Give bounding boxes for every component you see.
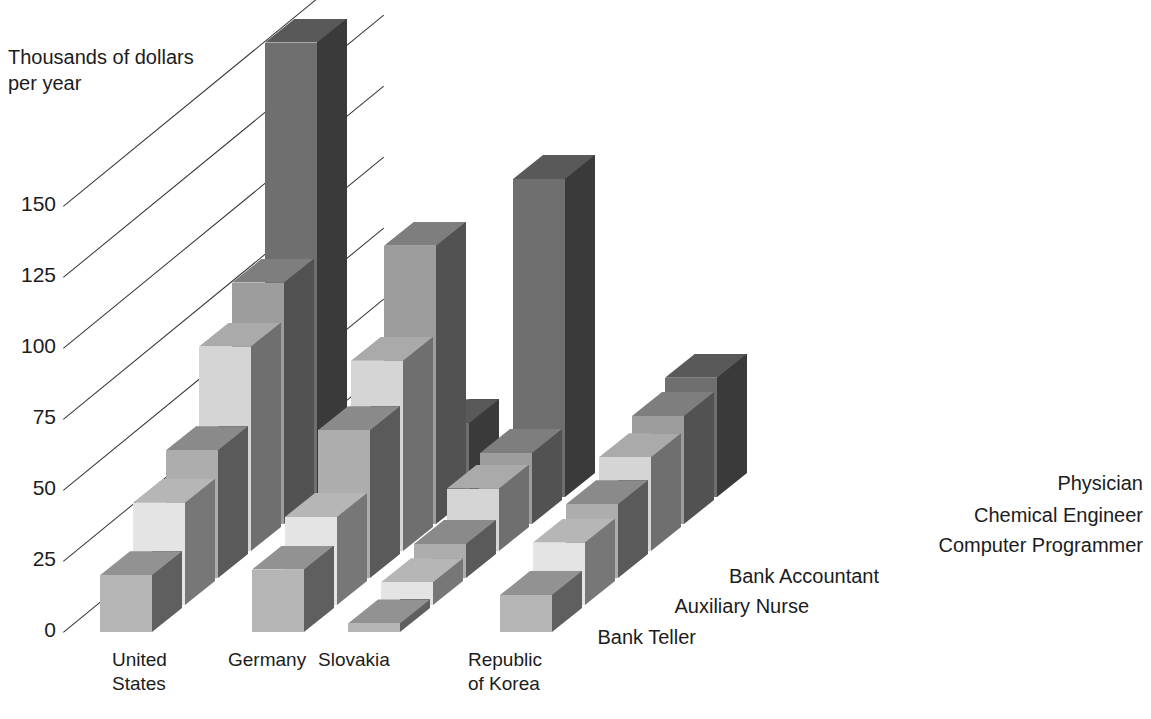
category-label-slovakia: Slovakia [318,648,390,672]
series-label-physician: Physician [1057,472,1143,495]
y-axis-tick-50: 50 [0,476,56,500]
bar-side-face [717,354,747,497]
y-axis-tick-25: 25 [0,547,56,571]
bar-side-face [218,426,248,578]
bar-bank-teller-germany [252,570,304,632]
chart-canvas: Thousands of dollars per year 1501251007… [0,0,1151,719]
bar-bank-teller-slovakia [348,623,400,632]
bar-front-face [348,623,400,632]
bar-bank-teller-republic-of-korea [500,595,552,632]
series-label-bank-teller: Bank Teller [597,626,696,649]
category-label-germany: Germany [228,648,306,672]
category-label-united-states: United States [112,648,167,696]
bar-front-face [100,575,152,632]
series-label-auxiliary-nurse: Auxiliary Nurse [675,595,809,618]
bar-side-face [251,323,281,551]
series-label-computer-programmer: Computer Programmer [938,534,1143,557]
y-axis-tick-0: 0 [0,618,56,642]
bar-side-face [284,259,314,524]
series-label-chemical-engineer: Chemical Engineer [974,504,1143,527]
y-axis-tick-100: 100 [0,334,56,358]
bar-side-face [565,155,595,497]
y-axis-caption: Thousands of dollars per year [8,44,194,96]
y-axis-tick-125: 125 [0,263,56,287]
bar-bank-teller-united-states [100,575,152,632]
bar-side-face [403,337,433,551]
y-axis-tick-150: 150 [0,192,56,216]
y-axis-tick-75: 75 [0,405,56,429]
series-label-bank-accountant: Bank Accountant [729,565,879,588]
bar-side-face [370,406,400,578]
bar-front-face [500,595,552,632]
bar-front-face [252,570,304,632]
category-label-republic-of-korea: Republic of Korea [468,648,542,696]
